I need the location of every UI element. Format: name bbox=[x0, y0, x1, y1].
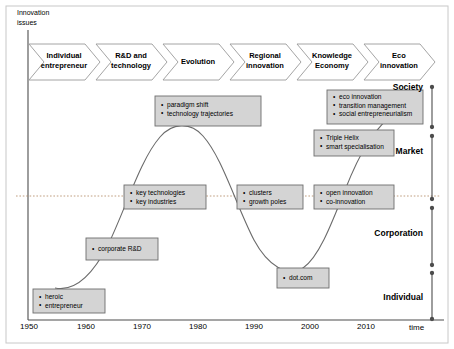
box-text-paradigm: paradigm shift technology trajectories bbox=[161, 101, 233, 118]
level-label-corporation: Corporation bbox=[325, 228, 423, 238]
phase-label-5: Knowledge Economy bbox=[299, 51, 365, 70]
x-tick-1980: 1980 bbox=[178, 322, 218, 331]
box-text-clusters: clusters growth poles bbox=[243, 189, 286, 206]
clusters-item-2: growth poles bbox=[243, 198, 286, 207]
triple-item-1: Triple Helix bbox=[320, 134, 384, 143]
x-tick-1990: 1990 bbox=[234, 322, 274, 331]
box-text-dotcom: dot.com bbox=[283, 274, 312, 283]
phase-label-4: Regional innovation bbox=[232, 51, 298, 70]
keytech-item-1: key technologies bbox=[130, 189, 185, 198]
x-tick-1950: 1950 bbox=[9, 322, 49, 331]
level-label-society: Society bbox=[335, 82, 423, 92]
eco-item-2: transition management bbox=[333, 102, 412, 111]
paradigm-item-1: paradigm shift bbox=[161, 101, 233, 110]
box-text-eco: eco innovation transition management soc… bbox=[333, 93, 412, 119]
phase-6-line1: Eco bbox=[366, 51, 432, 61]
phase-label-6: Eco innovation bbox=[366, 51, 432, 70]
eco-item-3: social entrepreneurialism bbox=[333, 110, 412, 119]
phase-label-2: R&D and technology bbox=[98, 51, 164, 70]
x-tick-2010: 2010 bbox=[346, 322, 386, 331]
level-scale-arrows bbox=[430, 85, 433, 320]
phase-3-line1: Evolution bbox=[165, 57, 231, 67]
phase-2-line1: R&D and bbox=[98, 51, 164, 61]
phase-1-line1: Individual bbox=[31, 51, 97, 61]
phase-4-line2: innovation bbox=[232, 61, 298, 71]
phase-6-line2: innovation bbox=[366, 61, 432, 71]
x-axis-label: time bbox=[409, 323, 424, 332]
phase-label-1: Individual entrepreneur bbox=[31, 51, 97, 70]
diagram-canvas: Innovation issues time Individual entrep… bbox=[0, 0, 454, 349]
phase-5-line2: Economy bbox=[299, 61, 365, 71]
x-tick-1960: 1960 bbox=[66, 322, 106, 331]
box-text-heroic: heroic entrepreneur bbox=[39, 293, 83, 310]
box-text-keytech: key technologies key industries bbox=[130, 189, 185, 206]
box-text-open: open innovation co-innovation bbox=[320, 189, 373, 206]
y-axis-title-line2: issues bbox=[17, 18, 49, 28]
level-label-individual: Individual bbox=[330, 292, 423, 302]
phase-4-line1: Regional bbox=[232, 51, 298, 61]
paradigm-item-2: technology trajectories bbox=[161, 110, 233, 119]
corporate-item-1: corporate R&D bbox=[92, 245, 142, 254]
box-text-triple: Triple Helix smart specialisation bbox=[320, 134, 384, 151]
clusters-item-1: clusters bbox=[243, 189, 286, 198]
eco-item-1: eco innovation bbox=[333, 93, 412, 102]
y-axis-title: Innovation issues bbox=[17, 8, 49, 27]
heroic-item-1-cont: entrepreneur bbox=[39, 302, 83, 311]
box-text-corporate: corporate R&D bbox=[92, 245, 142, 254]
heroic-item-1: heroic bbox=[39, 293, 83, 302]
triple-item-2: smart specialisation bbox=[320, 143, 384, 152]
dotcom-item-1: dot.com bbox=[283, 274, 312, 283]
phase-2-line2: technology bbox=[98, 61, 164, 71]
x-tick-1970: 1970 bbox=[122, 322, 162, 331]
x-tick-2000: 2000 bbox=[290, 322, 330, 331]
keytech-item-2: key industries bbox=[130, 198, 185, 207]
y-axis-title-line1: Innovation bbox=[17, 8, 49, 18]
open-item-1: open innovation bbox=[320, 189, 373, 198]
phase-5-line1: Knowledge bbox=[299, 51, 365, 61]
phase-label-3: Evolution bbox=[165, 57, 231, 67]
phase-1-line2: entrepreneur bbox=[31, 61, 97, 71]
open-item-2: co-innovation bbox=[320, 198, 373, 207]
